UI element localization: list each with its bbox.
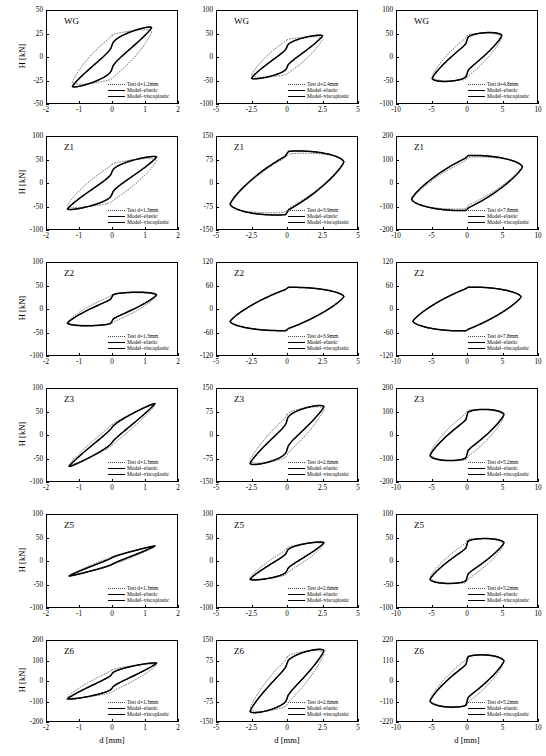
y-tick-mark [216, 561, 219, 562]
y-tick-label: -100 [194, 604, 213, 612]
y-tick-mark [396, 57, 399, 58]
x-tick-mark [323, 479, 324, 482]
legend-item: Model–viscoplastic [468, 219, 529, 225]
legend-swatch-test-dotted [468, 210, 485, 211]
legend-swatch-elastic-line [288, 594, 305, 595]
series-dotted [413, 287, 521, 331]
y-tick-mark [216, 309, 219, 310]
x-tick-mark [145, 605, 146, 608]
y-tick-mark [396, 412, 399, 413]
series-thick [67, 292, 156, 326]
y-tick-label: -75 [194, 203, 213, 211]
x-tick-label: -2 [43, 610, 49, 618]
legend-swatch-elastic-line [288, 90, 305, 91]
x-axis-label: d [mm] [396, 735, 538, 745]
x-tick-mark [287, 719, 288, 722]
x-tick-label: -5 [429, 358, 435, 366]
series-thick [230, 287, 344, 330]
y-tick-mark [396, 10, 399, 11]
y-tick-mark [396, 286, 399, 287]
x-tick-label: -1 [76, 358, 82, 366]
x-axis-label: d [mm] [46, 735, 178, 745]
x-tick-label: 2 [176, 106, 180, 114]
legend-label: Model–viscoplastic [307, 596, 349, 605]
x-tick-mark [216, 479, 217, 482]
x-tick-label: 0 [285, 484, 289, 492]
legend-swatch-test-dotted [468, 462, 485, 463]
y-tick-mark [46, 81, 49, 82]
x-tick-mark [538, 605, 539, 608]
x-tick-label: -5 [213, 232, 219, 240]
x-tick-mark [46, 227, 47, 230]
series-thin [413, 287, 521, 331]
y-tick-label: 100 [24, 510, 43, 518]
y-tick-label: 100 [374, 6, 393, 14]
legend-label: Model–viscoplastic [307, 344, 349, 353]
x-tick-label: 2 [176, 484, 180, 492]
y-axis-label: H [kN] [17, 540, 27, 580]
y-tick-mark [216, 482, 219, 483]
x-tick-mark [252, 227, 253, 230]
y-tick-label: 60 [194, 282, 213, 290]
y-tick-label: 0 [194, 677, 213, 685]
x-tick-label: 2 [176, 232, 180, 240]
x-tick-mark [467, 101, 468, 104]
y-axis-label: H [kN] [17, 660, 27, 700]
x-tick-label: -2.5 [246, 484, 257, 492]
y-tick-mark [216, 538, 219, 539]
legend-swatch-elastic-line [468, 90, 485, 91]
panel-title: Z2 [414, 268, 424, 278]
x-tick-label: 0 [110, 106, 114, 114]
x-tick-label: 5 [501, 610, 505, 618]
legend-item: Model–viscoplastic [108, 711, 169, 717]
legend-swatch-elastic-line [108, 342, 125, 343]
x-tick-label: -5 [429, 610, 435, 618]
y-tick-mark [396, 514, 399, 515]
legend-label: Model–viscoplastic [487, 596, 529, 605]
x-tick-label: 0 [110, 358, 114, 366]
y-tick-mark [396, 333, 399, 334]
y-tick-mark [46, 356, 49, 357]
y-tick-label: 100 [24, 258, 43, 266]
legend-swatch-test-dotted [288, 336, 305, 337]
y-tick-mark [396, 608, 399, 609]
x-tick-label: 5 [501, 358, 505, 366]
x-tick-mark [358, 719, 359, 722]
legend-swatch-test-dotted [108, 210, 125, 211]
x-tick-label: 2.5 [318, 484, 327, 492]
y-tick-mark [46, 514, 49, 515]
panel-title: Z3 [234, 394, 244, 404]
y-tick-label: 75 [194, 657, 213, 665]
y-tick-mark [46, 136, 49, 137]
y-tick-label: -50 [24, 203, 43, 211]
legend: Test d=2.6mmModel–elasticModel–viscoplas… [288, 585, 349, 603]
x-tick-label: 10 [534, 724, 541, 732]
x-tick-label: 0 [285, 232, 289, 240]
legend-swatch-viscoplastic-line [108, 600, 125, 601]
legend: Test d=1.3mmModel–elasticModel–viscoplas… [108, 699, 169, 717]
legend-swatch-test-dotted [108, 702, 125, 703]
y-tick-label: -60 [374, 329, 393, 337]
y-tick-mark [46, 333, 49, 334]
x-tick-mark [216, 101, 217, 104]
legend-item: Model–viscoplastic [288, 471, 349, 477]
x-tick-mark [79, 479, 80, 482]
y-tick-mark [396, 538, 399, 539]
legend: Test d=2.4mmModel–elasticModel–viscoplas… [288, 81, 349, 99]
series-dotted [412, 157, 523, 209]
x-tick-mark [112, 353, 113, 356]
y-tick-mark [396, 702, 399, 703]
legend-swatch-test-dotted [108, 588, 125, 589]
legend-item: Model–viscoplastic [468, 345, 529, 351]
legend-swatch-test-dotted [288, 84, 305, 85]
chart-panel: -100-50050100-10-50510Z5Test d=5.2mmMode… [366, 504, 546, 630]
legend-label: Model–viscoplastic [307, 710, 349, 719]
y-tick-label: -60 [194, 329, 213, 337]
legend-swatch-test-dotted [288, 210, 305, 211]
legend-swatch-viscoplastic-line [288, 600, 305, 601]
legend-swatch-elastic-line [468, 342, 485, 343]
y-tick-mark [216, 722, 219, 723]
x-tick-label: 2 [176, 358, 180, 366]
y-tick-label: 100 [24, 132, 43, 140]
y-tick-mark [216, 262, 219, 263]
